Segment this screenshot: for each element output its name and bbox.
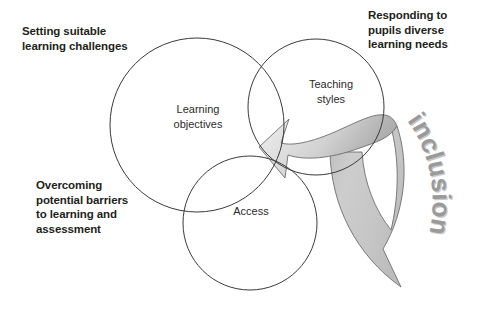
- label-teaching-styles-line1: Teaching: [309, 78, 353, 90]
- callout-responding-to-pupils-diverse-learning-needs: Responding to pupils diverse learning ne…: [368, 8, 448, 52]
- callout-overcoming-potential-barriers: Overcoming potential barriers to learnin…: [36, 178, 128, 237]
- label-access: Access: [233, 205, 269, 217]
- inclusion-wordmark: inclusion inclusion: [402, 107, 458, 272]
- inclusion-diagram: Learning objectives Teaching styles Acce…: [0, 0, 477, 317]
- label-learning-objectives-line2: objectives: [174, 118, 223, 130]
- circle-access: [183, 156, 317, 290]
- arrow-head-sweep: [259, 115, 397, 178]
- callout-setting-suitable-learning-challenges: Setting suitable learning challenges: [22, 24, 127, 53]
- label-teaching-styles-line2: styles: [317, 93, 346, 105]
- inclusion-arrow-band: [259, 115, 404, 287]
- inclusion-main-layer: inclusion: [402, 107, 457, 238]
- label-learning-objectives-line1: Learning: [177, 103, 220, 115]
